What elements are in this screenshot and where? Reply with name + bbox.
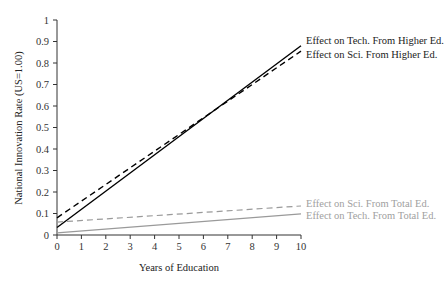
y-tick-label: 0.5 <box>36 122 49 133</box>
y-tick-label: 1 <box>44 15 49 26</box>
series-labels: Effect on Tech. From Higher Ed.Effect on… <box>306 35 444 221</box>
y-tick-label: 0.9 <box>36 36 49 47</box>
series-line <box>57 51 301 218</box>
x-tick-label: 4 <box>152 241 158 252</box>
x-tick-label: 8 <box>250 241 255 252</box>
x-tick-label: 10 <box>296 241 307 252</box>
x-tick-label: 7 <box>225 241 230 252</box>
y-tick-label: 0 <box>44 230 49 241</box>
x-axis-label: Years of Education <box>139 262 220 273</box>
series-line <box>57 46 301 228</box>
x-tick-label: 1 <box>79 241 84 252</box>
y-tick-label: 0.7 <box>36 79 49 90</box>
y-tick-label: 0.1 <box>36 208 49 219</box>
series-label: Effect on Tech. From Higher Ed. <box>306 35 444 46</box>
y-tick-label: 0.8 <box>36 58 49 69</box>
series-line <box>57 214 301 233</box>
y-tick-label: 0.2 <box>36 187 49 198</box>
series-label: Effect on Sci. From Total Ed. <box>306 198 429 209</box>
series-lines <box>57 46 301 233</box>
series-line <box>57 206 301 222</box>
series-label: Effect on Tech. From Total Ed. <box>306 210 436 221</box>
series-label: Effect on Sci. From Higher Ed. <box>306 49 437 60</box>
x-tick-label: 9 <box>274 241 279 252</box>
y-tick-label: 0.3 <box>36 165 49 176</box>
x-tick-label: 6 <box>201 241 206 252</box>
x-tick-label: 2 <box>103 241 108 252</box>
line-chart: 00.10.20.30.40.50.60.70.80.9101234567891… <box>0 0 445 281</box>
x-tick-label: 0 <box>54 241 59 252</box>
x-tick-label: 5 <box>176 241 181 252</box>
y-tick-label: 0.6 <box>36 101 49 112</box>
x-tick-label: 3 <box>128 241 133 252</box>
y-axis-label: National Innovation Rate (US=1.00) <box>13 51 25 205</box>
y-tick-label: 0.4 <box>36 144 50 155</box>
